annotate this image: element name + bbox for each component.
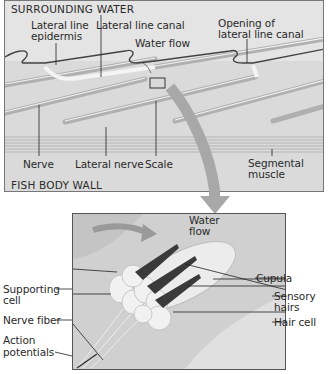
fish-body-wall-label: FISH BODY WALL (11, 179, 102, 191)
lateral-nerve-label: Lateral nerve (75, 158, 144, 170)
supporting-cell-label-2: cell (3, 294, 21, 306)
lateral-line-cross-section-panel: SURROUNDING WATER Lateral line epidermis… (4, 0, 324, 192)
nerve-fiber-label: Nerve fiber (3, 314, 61, 326)
cupula-label: Cupula (256, 272, 292, 284)
segmental-muscle-label-2: muscle (248, 168, 285, 180)
opening-lateral-line-canal-label-2: lateral line canal (218, 28, 304, 40)
surrounding-water-label: SURROUNDING WATER (11, 3, 134, 15)
sensory-hairs-label-2: hairs (274, 301, 299, 313)
nerve-label: Nerve (23, 158, 54, 170)
action-potentials-label-1: Action (3, 334, 35, 346)
neuromast-illustration (73, 214, 286, 370)
hair-cell-label: Hair cell (274, 316, 316, 328)
lateral-line-epidermis-label-2: epidermis (31, 30, 82, 42)
neuromast-detail-panel: Water flow (72, 213, 286, 370)
detail-water-flow-label-2: flow (189, 225, 210, 237)
action-potentials-label-2: potentials (3, 346, 54, 358)
lateral-line-canal-label: Lateral line canal (96, 19, 185, 31)
water-flow-label: Water flow (135, 37, 190, 49)
scale-label: Scale (145, 158, 173, 170)
